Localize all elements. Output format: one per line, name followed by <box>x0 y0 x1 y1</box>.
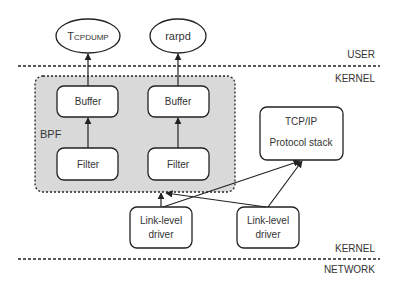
rarpd-label: rarpd <box>165 30 191 42</box>
layer-kernel-bottom-label: KERNEL <box>335 243 375 254</box>
driver-box-1 <box>130 207 192 248</box>
protocol-stack-box <box>260 107 343 160</box>
arrow-driver2-to-tcpip <box>268 161 302 207</box>
bpf-label: BPF <box>40 128 62 140</box>
layer-network-label: NETWORK <box>324 264 375 275</box>
driver-2-line1: Link-level <box>247 215 289 226</box>
buffer-label-2: Buffer <box>165 96 192 107</box>
driver-1-line2: driver <box>148 229 174 240</box>
driver-box-2 <box>237 207 299 248</box>
layer-kernel-top-label: KERNEL <box>335 73 375 84</box>
bpf-architecture-diagram: BPF USER KERNEL KERNEL NETWORK TCPDUMP r… <box>0 0 396 284</box>
buffer-label-1: Buffer <box>75 96 102 107</box>
driver-1-line1: Link-level <box>140 215 182 226</box>
filter-label-1: Filter <box>77 159 100 170</box>
arrow-driver2-to-bpf <box>166 193 266 207</box>
layer-user-label: USER <box>347 49 375 60</box>
driver-2-line2: driver <box>255 229 281 240</box>
filter-label-2: Filter <box>167 159 190 170</box>
protocol-stack-line2: Protocol stack <box>270 137 334 148</box>
protocol-stack-line1: TCP/IP <box>285 116 318 127</box>
